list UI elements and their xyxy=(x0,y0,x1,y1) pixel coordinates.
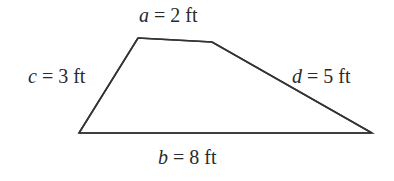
label-side-b: b = 8 ft xyxy=(158,146,217,168)
trapezoid-figure: a = 2 ft c = 3 ft d = 5 ft b = 8 ft xyxy=(0,0,394,181)
label-side-d-eq: = 5 ft xyxy=(302,65,351,87)
label-side-a-eq: = 2 ft xyxy=(149,4,198,26)
label-side-a-var: a xyxy=(139,4,149,26)
label-side-c-eq: = 3 ft xyxy=(37,65,86,87)
label-side-c: c = 3 ft xyxy=(28,65,86,87)
label-side-b-var: b xyxy=(158,146,168,168)
side-a-line xyxy=(138,38,212,42)
trapezoid-diagram: a = 2 ft c = 3 ft d = 5 ft b = 8 ft xyxy=(0,0,394,181)
label-side-d: d = 5 ft xyxy=(292,65,351,87)
side-c-line xyxy=(79,38,138,133)
side-d-line xyxy=(212,42,372,133)
label-side-a: a = 2 ft xyxy=(139,4,198,26)
label-side-b-eq: = 8 ft xyxy=(168,146,217,168)
label-side-c-var: c xyxy=(28,65,37,87)
